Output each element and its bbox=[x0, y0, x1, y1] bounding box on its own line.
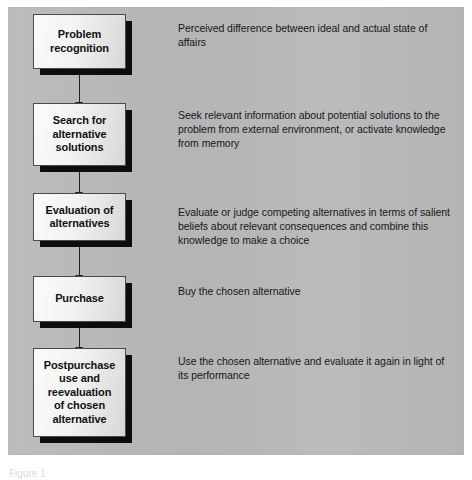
flow-node-label: Search foralternativesolutions bbox=[49, 114, 111, 155]
flowchart-panel: Problemrecognition Search foralternative… bbox=[8, 7, 464, 455]
figure-caption: Figure 1 bbox=[9, 468, 309, 480]
node-shadow-right bbox=[126, 355, 132, 443]
flow-node-problem-recognition[interactable]: Problemrecognition bbox=[33, 14, 126, 69]
node-shadow-bottom bbox=[40, 437, 132, 443]
flow-description-purchase: Buy the chosen alternative bbox=[178, 284, 453, 298]
node-shadow-right bbox=[126, 110, 132, 172]
flow-node-postpurchase-use-and-reevaluation[interactable]: Postpurchaseuse andreevaluationof chosen… bbox=[33, 348, 126, 437]
node-shadow-bottom bbox=[40, 322, 132, 328]
node-shadow-bottom bbox=[40, 241, 132, 247]
flow-node-evaluation-of-alternatives[interactable]: Evaluation ofalternatives bbox=[33, 193, 126, 241]
flow-node-label: Purchase bbox=[51, 292, 108, 306]
flow-node-label: Problemrecognition bbox=[46, 28, 113, 55]
node-shadow-right bbox=[126, 21, 132, 75]
flow-description-search-for-alternative-solutions: Seek relevant information about potentia… bbox=[178, 108, 453, 150]
flow-description-problem-recognition: Perceived difference between ideal and a… bbox=[178, 21, 453, 49]
node-shadow-bottom bbox=[40, 166, 132, 172]
node-shadow-bottom bbox=[40, 69, 132, 75]
flow-node-search-for-alternative-solutions[interactable]: Search foralternativesolutions bbox=[33, 103, 126, 166]
node-shadow-right bbox=[126, 200, 132, 247]
flow-node-purchase[interactable]: Purchase bbox=[33, 276, 126, 322]
flow-description-postpurchase: Use the chosen alternative and evaluate … bbox=[178, 354, 453, 382]
flow-node-label: Postpurchaseuse andreevaluationof chosen… bbox=[40, 359, 120, 427]
figure-canvas: Problemrecognition Search foralternative… bbox=[0, 0, 472, 480]
flow-node-label: Evaluation ofalternatives bbox=[42, 204, 118, 231]
flow-description-evaluation-of-alternatives: Evaluate or judge competing alternatives… bbox=[178, 205, 453, 247]
